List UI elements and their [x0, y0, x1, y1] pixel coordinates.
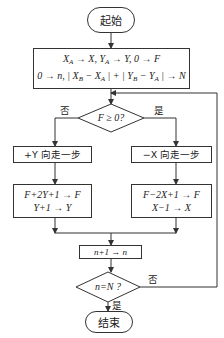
right-update-line-2: X−1 → X: [152, 201, 191, 214]
init-process-box: XA → X, YA → Y, 0 → F 0 → n, | XB − XA |…: [33, 48, 190, 89]
left-update-box: F+2Y+1 → F Y+1 → Y: [13, 184, 92, 218]
left-update-line-2: Y+1 → Y: [34, 201, 72, 214]
end-label: 结束: [98, 314, 120, 330]
decision-f-no-label: 否: [58, 105, 72, 117]
decision-n-no-label: 否: [146, 274, 160, 286]
start-terminal: 起始: [87, 7, 135, 33]
right-update-line-1: F−2X+1 → F: [143, 188, 200, 201]
increment-label: n+1 → n: [94, 246, 127, 259]
increment-box: n+1 → n: [79, 245, 142, 259]
end-terminal: 结束: [85, 311, 133, 333]
left-step-label: +Y 向走一步: [24, 148, 81, 161]
right-step-label: −X 向走一步: [143, 148, 201, 161]
init-line-2: 0 → n, | XB − XA | + | YB − YA | → N: [37, 69, 185, 86]
init-line-1: XA → X, YA → Y, 0 → F: [63, 52, 160, 69]
start-label: 起始: [100, 12, 122, 28]
left-update-line-1: F+2Y+1 → F: [24, 188, 80, 201]
right-update-box: F−2X+1 → F X−1 → X: [131, 184, 212, 218]
decision-f-yes-label: 是: [152, 105, 166, 117]
right-step-box: −X 向走一步: [131, 146, 212, 163]
left-step-box: +Y 向走一步: [13, 146, 92, 163]
decision-n-label: n=N ?: [86, 281, 130, 293]
decision-f-label: F ≥ 0?: [88, 112, 134, 124]
